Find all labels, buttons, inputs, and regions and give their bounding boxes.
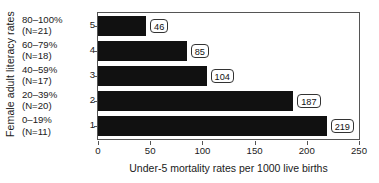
category-count: (N=17) bbox=[22, 75, 88, 86]
category-label: 20–39%(N=20) bbox=[22, 89, 88, 111]
bar-value-label: 46 bbox=[150, 19, 168, 33]
y-tick-mark bbox=[94, 51, 98, 52]
bar-value-label: 187 bbox=[297, 94, 320, 108]
x-tick-label-group: 050100150200250 bbox=[97, 145, 360, 157]
category-label: 80–100%(N=21) bbox=[22, 14, 88, 36]
bar-value-label: 104 bbox=[211, 69, 234, 83]
category-range: 0–19% bbox=[22, 114, 88, 125]
x-tick-label: 100 bbox=[194, 145, 210, 156]
category-label-group: 0–19%(N=11)20–39%(N=20)40–59%(N=17)60–79… bbox=[22, 12, 88, 140]
category-label: 60–79%(N=18) bbox=[22, 39, 88, 61]
y-axis-title-container: Female adult literacy rates bbox=[0, 0, 20, 148]
category-range: 60–79% bbox=[22, 39, 88, 50]
plot-area: 2191871048546 bbox=[97, 12, 360, 140]
bar bbox=[98, 91, 293, 111]
category-count: (N=18) bbox=[22, 50, 88, 61]
y-tick-mark bbox=[94, 26, 98, 27]
bar bbox=[98, 116, 327, 136]
bar-value-label: 85 bbox=[191, 44, 209, 58]
y-tick-label: 5 bbox=[86, 20, 95, 30]
category-label: 40–59%(N=17) bbox=[22, 64, 88, 86]
y-tick-mark bbox=[94, 126, 98, 127]
y-tick-mark bbox=[94, 101, 98, 102]
y-tick-mark bbox=[94, 76, 98, 77]
x-axis-title: Under-5 mortality rates per 1000 live bi… bbox=[97, 162, 360, 174]
category-count: (N=11) bbox=[22, 126, 88, 137]
category-count: (N=21) bbox=[22, 25, 88, 36]
bar bbox=[98, 16, 146, 36]
y-tick-label: 1 bbox=[86, 120, 95, 130]
category-range: 40–59% bbox=[22, 64, 88, 75]
x-tick-label: 0 bbox=[95, 145, 100, 156]
category-count: (N=20) bbox=[22, 100, 88, 111]
x-tick-label: 150 bbox=[247, 145, 263, 156]
chart-figure: Female adult literacy rates 0–19%(N=11)2… bbox=[0, 0, 379, 183]
y-tick-label: 2 bbox=[86, 95, 95, 105]
category-range: 80–100% bbox=[22, 14, 88, 25]
x-tick-label: 250 bbox=[351, 145, 367, 156]
y-tick-label: 4 bbox=[86, 45, 95, 55]
x-tick-label: 50 bbox=[145, 145, 156, 156]
bar bbox=[98, 66, 207, 86]
y-axis-title: Female adult literacy rates bbox=[4, 11, 16, 137]
bar-value-label: 219 bbox=[331, 119, 354, 133]
category-label: 0–19%(N=11) bbox=[22, 114, 88, 136]
x-tick-label: 200 bbox=[299, 145, 315, 156]
bar bbox=[98, 41, 187, 61]
category-range: 20–39% bbox=[22, 89, 88, 100]
y-tick-label: 3 bbox=[86, 70, 95, 80]
